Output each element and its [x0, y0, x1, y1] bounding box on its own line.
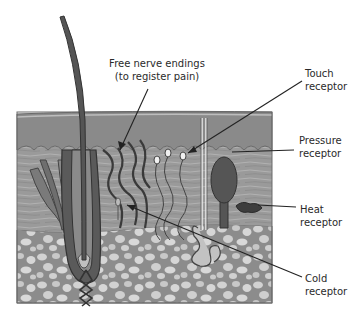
label-heat-receptor: Heat receptor — [300, 203, 342, 229]
subcutaneous-layer — [17, 224, 272, 303]
epidermis-layer — [17, 111, 272, 150]
label-free-nerve-endings: Free nerve endings (to register pain) — [100, 57, 214, 83]
label-pressure-receptor: Pressure receptor — [299, 134, 342, 160]
label-touch-receptor: Touch receptor — [305, 67, 347, 93]
label-cold-receptor: Cold receptor — [305, 272, 347, 298]
heat-receptor — [236, 202, 262, 212]
